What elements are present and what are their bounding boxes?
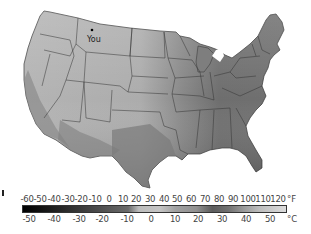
f-tick: 30 bbox=[145, 194, 155, 204]
c-tick: 30 bbox=[217, 214, 227, 224]
f-tick: -10 bbox=[89, 194, 102, 204]
f-tick: -30 bbox=[62, 194, 75, 204]
f-tick: -20 bbox=[75, 194, 88, 204]
f-tick: 90 bbox=[228, 194, 238, 204]
c-tick: -20 bbox=[96, 214, 109, 224]
c-tick: -10 bbox=[121, 214, 134, 224]
temperature-color-bar bbox=[22, 205, 287, 213]
c-tick: -40 bbox=[48, 214, 61, 224]
f-tick: -50 bbox=[34, 194, 47, 204]
c-tick: -30 bbox=[73, 214, 86, 224]
f-tick: 60 bbox=[186, 194, 196, 204]
edge-tick-mark bbox=[2, 190, 4, 196]
f-tick: 50 bbox=[172, 194, 182, 204]
us-temperature-map bbox=[0, 0, 311, 200]
f-tick: 20 bbox=[131, 194, 141, 204]
f-tick: -40 bbox=[48, 194, 61, 204]
c-tick: 50 bbox=[265, 214, 275, 224]
celsius-unit: °C bbox=[287, 214, 297, 224]
f-tick: -60 bbox=[21, 194, 34, 204]
f-tick: 120 bbox=[270, 194, 285, 204]
c-tick: 20 bbox=[193, 214, 203, 224]
f-tick: 10 bbox=[118, 194, 128, 204]
c-tick: 10 bbox=[170, 214, 180, 224]
f-tick: 0 bbox=[106, 194, 111, 204]
us-outline bbox=[24, 11, 284, 188]
f-tick: 110 bbox=[255, 194, 270, 204]
c-tick: 40 bbox=[241, 214, 251, 224]
you-marker-label: You bbox=[87, 35, 101, 44]
f-tick: 80 bbox=[214, 194, 224, 204]
fahrenheit-unit: °F bbox=[287, 194, 296, 204]
c-tick: 0 bbox=[148, 214, 153, 224]
c-tick: -50 bbox=[23, 214, 36, 224]
f-tick: 40 bbox=[159, 194, 169, 204]
f-tick: 100 bbox=[240, 194, 255, 204]
f-tick: 70 bbox=[200, 194, 210, 204]
location-dot-icon bbox=[91, 29, 94, 32]
